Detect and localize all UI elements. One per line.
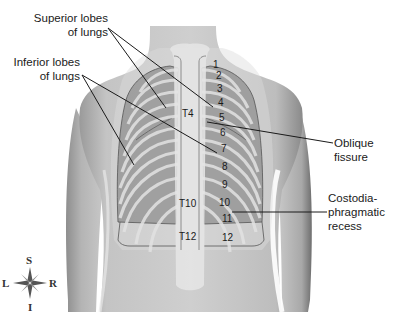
rib-number: 4 [218,97,224,108]
label-costodiaphragmatic-recess: Costodia- phragmatic recess [328,191,385,233]
label-line: fissure [334,150,374,164]
label-oblique-fissure: Oblique fissure [334,136,374,164]
rib-number: 6 [220,127,226,138]
rib-number: 8 [222,161,228,172]
rib-number: 11 [222,213,233,224]
label-inferior-lobes: Inferior lobes of lungs [4,55,80,83]
label-line: phragmatic [328,205,385,219]
label-line: of lungs [4,69,80,83]
label-line: Inferior lobes [4,55,80,69]
rib-number: 3 [217,83,223,94]
compass-superior: S [26,254,32,266]
label-line: Costodia- [328,191,385,205]
label-line: recess [328,219,385,233]
label-line: Superior lobes [30,11,108,25]
vertebra-label-t4: T4 [182,108,194,119]
orientation-compass: S I L R [2,254,58,313]
vertebral-column [170,44,210,291]
compass-inferior: I [28,301,32,313]
rib-number: 9 [222,179,228,190]
label-line: of lungs [30,25,108,39]
label-line: Oblique [334,136,374,150]
rib-number: 12 [222,232,234,243]
label-superior-lobes: Superior lobes of lungs [30,11,108,39]
rib-number: 5 [219,112,225,123]
vertebra-label-t12: T12 [179,231,197,242]
rib-number: 7 [221,143,227,154]
vertebra-label-t10: T10 [179,198,197,209]
compass-left: L [2,277,9,289]
posterior-thorax-diagram: T4 T10 T12 1 2 3 4 5 6 7 8 9 10 11 12 [0,0,396,326]
rib-number: 1 [213,59,219,70]
compass-right: R [49,277,58,289]
rib-number: 10 [219,197,231,208]
rib-number: 2 [216,70,222,81]
